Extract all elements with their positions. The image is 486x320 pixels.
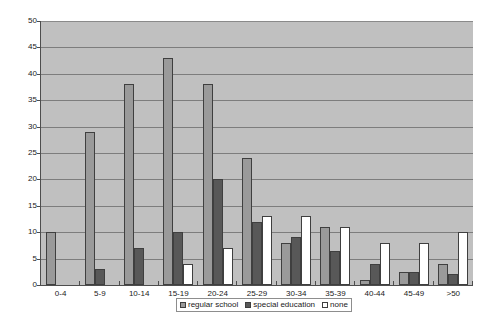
- x-tick-label: 10-14: [120, 287, 159, 303]
- y-tick-label: 40: [28, 70, 37, 78]
- bar: [124, 84, 134, 285]
- bar: [409, 272, 419, 285]
- legend-item: none: [322, 300, 348, 310]
- legend-label: special education: [253, 300, 315, 310]
- bar-group: [237, 21, 276, 285]
- bar: [262, 216, 272, 285]
- bar: [438, 264, 448, 285]
- y-tick-label: 10: [28, 228, 37, 236]
- bar: [134, 248, 144, 285]
- x-tick-label: 0-4: [41, 287, 80, 303]
- bar: [419, 243, 429, 285]
- legend-swatch-icon: [322, 302, 328, 308]
- bar: [380, 243, 390, 285]
- bar-group: [355, 21, 394, 285]
- bar-group: [277, 21, 316, 285]
- bar: [242, 158, 252, 285]
- bar-chart-figure: 05101520253035404550 0-45-910-1415-1920-…: [0, 0, 486, 320]
- x-tick-mark: [472, 281, 473, 285]
- bar: [163, 58, 173, 285]
- bar: [173, 232, 183, 285]
- bar-group: [394, 21, 433, 285]
- bar: [281, 243, 291, 285]
- legend-label: regular school: [188, 300, 238, 310]
- y-tick-label: 35: [28, 96, 37, 104]
- bar-group: [316, 21, 355, 285]
- bar-group: [434, 21, 473, 285]
- bars-layer: [41, 21, 473, 285]
- bar: [340, 227, 350, 285]
- y-tick-mark: [37, 285, 41, 286]
- bar: [320, 227, 330, 285]
- bar: [458, 232, 468, 285]
- bar: [183, 264, 193, 285]
- plot-area: 05101520253035404550: [40, 21, 473, 286]
- bar-group: [198, 21, 237, 285]
- y-tick-label: 20: [28, 175, 37, 183]
- x-tick-label: 5-9: [80, 287, 119, 303]
- bar: [95, 269, 105, 285]
- bar: [46, 232, 56, 285]
- y-tick-label: 50: [28, 17, 37, 25]
- x-tick-label: 40-44: [355, 287, 394, 303]
- bar: [223, 248, 233, 285]
- legend-label: none: [330, 300, 348, 310]
- x-tick-label: 45-49: [394, 287, 433, 303]
- bar: [370, 264, 380, 285]
- bar: [301, 216, 311, 285]
- bar: [330, 251, 340, 285]
- bar-group: [80, 21, 119, 285]
- y-tick-label: 30: [28, 123, 37, 131]
- legend-item: regular school: [180, 300, 238, 310]
- bar: [360, 280, 370, 285]
- chart-legend: regular schoolspecial educationnone: [176, 298, 352, 312]
- x-tick-label: >50: [434, 287, 473, 303]
- bar: [448, 274, 458, 285]
- bar: [213, 179, 223, 285]
- bar: [85, 132, 95, 285]
- bar-group: [159, 21, 198, 285]
- bar: [203, 84, 213, 285]
- y-tick-label: 45: [28, 43, 37, 51]
- legend-swatch-icon: [245, 302, 251, 308]
- y-tick-label: 25: [28, 149, 37, 157]
- bar: [291, 237, 301, 285]
- legend-item: special education: [245, 300, 315, 310]
- legend-swatch-icon: [180, 302, 186, 308]
- y-tick-label: 15: [28, 202, 37, 210]
- bar-group: [41, 21, 80, 285]
- bar: [399, 272, 409, 285]
- bar: [252, 222, 262, 285]
- bar-group: [120, 21, 159, 285]
